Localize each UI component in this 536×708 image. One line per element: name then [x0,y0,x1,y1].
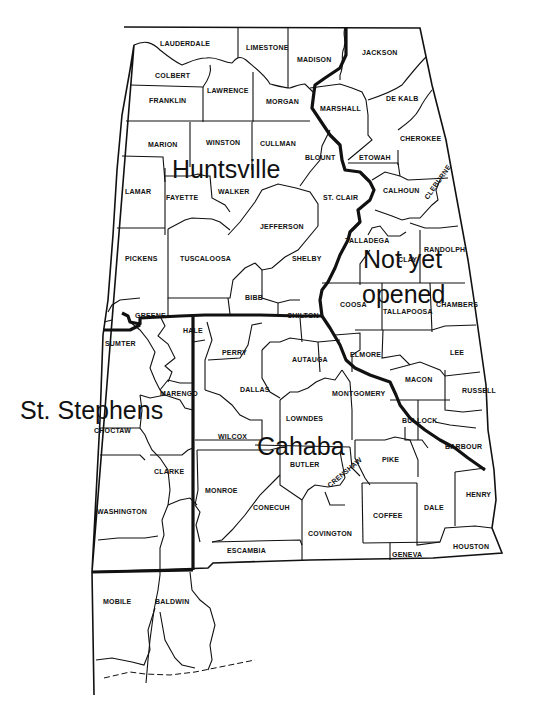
alabama-map: LAUDERDALELIMESTONEMADISONJACKSONCOLBERT… [0,0,536,708]
county-label-cleburne: CLEBURNE [423,163,452,200]
county-label-pike: PIKE [382,456,399,463]
district-label-huntsville: Huntsville [172,155,280,183]
district-label-not-yet: Not yet [363,245,442,273]
county-label-greene: GREENE [135,312,166,319]
county-label-walker: WALKER [218,188,250,195]
county-label-de-kalb: DE KALB [386,95,419,102]
county-label-geneva: GENEVA [392,551,422,558]
county-label-coffee: COFFEE [373,512,403,519]
county-label-lawrence: LAWRENCE [207,87,249,94]
county-label-escambia: ESCAMBIA [227,547,266,554]
county-label-madison: MADISON [297,56,331,63]
county-label-lee: LEE [450,349,464,356]
county-label-houston: HOUSTON [453,543,489,550]
county-label-franklin: FRANKLIN [149,97,186,104]
county-label-jackson: JACKSON [362,49,398,56]
county-label-lamar: LAMAR [125,188,151,195]
county-label-conecuh: CONECUH [253,504,290,511]
county-label-sumter: SUMTER [105,340,136,347]
district-label-cahaba: Cahaba [257,432,345,460]
county-label-barbour: BARBOUR [445,443,482,450]
county-label-dale: DALE [424,504,444,511]
county-label-shelby: SHELBY [292,255,322,262]
district-label-opened: opened [362,280,445,308]
county-label-fayette: FAYETTE [166,194,198,201]
county-label-macon: MACON [405,376,432,383]
county-label-etowah: ETOWAH [359,154,391,161]
county-label-perry: PERRY [222,349,247,356]
county-label-calhoun: CALHOUN [383,187,419,194]
county-label-tallapoosa: TALLAPOOSA [383,308,433,315]
county-label-marshall: MARSHALL [320,105,361,112]
county-label-monroe: MONROE [205,487,238,494]
county-label-baldwin: BALDWIN [155,598,189,605]
county-label-butler: BUTLER [290,461,320,468]
county-label-dallas: DALLAS [240,386,270,393]
county-label-bibb: BIBB [245,294,263,301]
county-label-colbert: COLBERT [155,72,191,79]
county-label-jefferson: JEFFERSON [260,223,304,230]
county-label-mobile: MOBILE [103,598,132,605]
county-label-talladega: TALLADEGA [345,237,389,244]
county-label-bullock: BULLOCK [402,417,438,424]
county-label-henry: HENRY [466,491,491,498]
county-label-marion: MARION [148,141,178,148]
county-label-clarke: CLARKE [154,468,184,475]
county-label-st-clair: ST. CLAIR [323,194,358,201]
county-label-pickens: PICKENS [125,255,158,262]
county-label-blount: BLOUNT [305,154,336,161]
district-label-st-stephens: St. Stephens [20,396,163,424]
county-label-autauga: AUTAUGA [292,356,328,363]
county-label-cullman: CULLMAN [260,140,296,147]
county-label-hale: HALE [183,327,203,334]
county-label-lowndes: LOWNDES [286,415,323,422]
st-stephens-south-boundary [92,570,193,572]
county-labels: LAUDERDALELIMESTONEMADISONJACKSONCOLBERT… [94,40,497,605]
county-label-winston: WINSTON [206,139,240,146]
county-label-choctaw: CHOCTAW [94,427,131,434]
district-labels: HuntsvilleNot yetopenedSt. StephensCahab… [20,155,445,460]
county-label-cherokee: CHEROKEE [400,135,441,142]
county-label-russell: RUSSELL [462,387,497,394]
county-label-lauderdale: LAUDERDALE [160,40,210,47]
county-label-tuscaloosa: TUSCALOOSA [180,255,231,262]
county-label-wilcox: WILCOX [218,433,247,440]
county-label-covington: COVINGTON [308,530,352,537]
county-label-morgan: MORGAN [266,98,299,105]
county-label-crenshaw: CRENSHAW [326,456,363,489]
county-label-montgomery: MONTGOMERY [332,390,386,397]
county-label-elmore: ELMORE [350,351,381,358]
county-label-chilton: CHILTON [287,312,319,319]
county-label-marengo: MARENGO [160,390,198,397]
county-label-washington: WASHINGTON [97,508,147,515]
county-label-limestone: LIMESTONE [246,44,289,51]
